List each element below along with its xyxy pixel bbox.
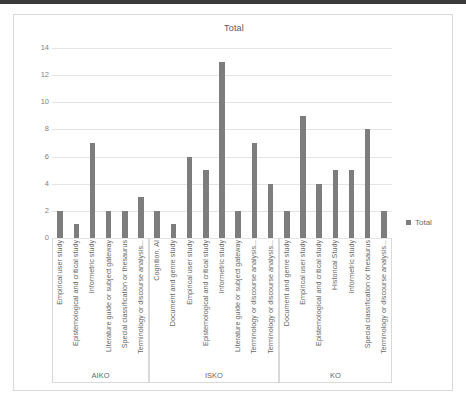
legend-swatch-total [406, 220, 411, 225]
group-label: ISKO [150, 371, 278, 380]
bar [235, 211, 241, 238]
group-label: KO [280, 371, 391, 380]
bar [284, 211, 290, 238]
legend: Total [406, 218, 432, 227]
bar [90, 143, 96, 238]
group-box-aiko: AIKO [52, 238, 149, 383]
bar [219, 62, 225, 238]
chart-container: Total 02468101214 Empirical user studyEp… [13, 14, 453, 391]
group-box-isko: ISKO [149, 238, 279, 383]
bar [381, 211, 387, 238]
bar [349, 170, 355, 238]
bar [57, 211, 63, 238]
y-axis-tick-label: 14 [27, 44, 49, 52]
bar [300, 116, 306, 238]
bar [252, 143, 258, 238]
bar [106, 211, 112, 238]
y-axis-tick-label: 6 [27, 153, 49, 161]
y-axis-tick-label: 12 [27, 71, 49, 79]
bar [74, 224, 80, 238]
plot-area [52, 48, 392, 238]
group-label: AIKO [53, 371, 148, 380]
scan-band [0, 0, 466, 4]
bar [203, 170, 209, 238]
bar [138, 197, 144, 238]
y-axis-tick-label: 10 [27, 99, 49, 107]
bar [316, 184, 322, 238]
group-box-ko: KO [279, 238, 392, 383]
legend-label-total: Total [415, 218, 432, 227]
y-axis-tick-label: 4 [27, 180, 49, 188]
bar [171, 224, 177, 238]
bar [268, 184, 274, 238]
bar [187, 157, 193, 238]
chart-title: Total [14, 23, 454, 33]
bar-series [52, 48, 392, 238]
y-axis-tick-label: 2 [27, 207, 49, 215]
bar [154, 211, 160, 238]
y-axis: 02468101214 [27, 48, 49, 238]
y-axis-tick-label: 0 [27, 234, 49, 242]
y-axis-tick-label: 8 [27, 126, 49, 134]
bar [122, 211, 128, 238]
bar [365, 129, 371, 238]
x-axis-group-boxes: AIKOISKOKO [52, 238, 392, 383]
bar [333, 170, 339, 238]
